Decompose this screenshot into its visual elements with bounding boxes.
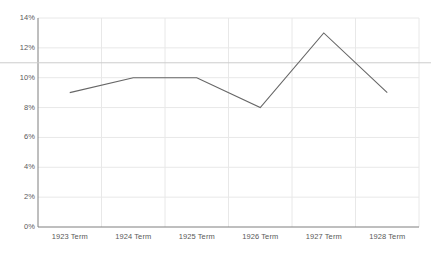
line-chart: 0%2%4%6%8%10%12%14% 1923 Term1924 Term19…	[0, 0, 431, 254]
x-tick-label: 1925 Term	[165, 232, 229, 246]
x-axis-tick-labels: 1923 Term1924 Term1925 Term1926 Term1927…	[38, 232, 419, 246]
x-tick-label: 1927 Term	[292, 232, 356, 246]
x-tick-label: 1928 Term	[356, 232, 420, 246]
vertical-gridlines	[102, 18, 420, 227]
chart-plot-area	[0, 0, 431, 254]
x-tick-label: 1923 Term	[38, 232, 102, 246]
x-tick-label: 1926 Term	[229, 232, 293, 246]
x-tick-label: 1924 Term	[102, 232, 166, 246]
